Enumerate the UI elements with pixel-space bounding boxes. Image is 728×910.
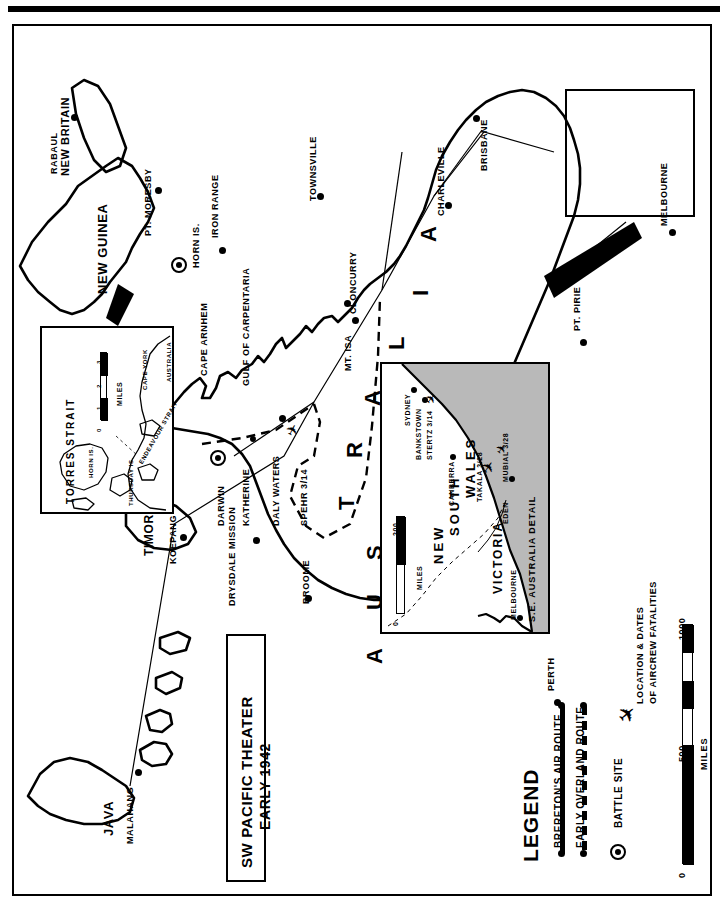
place-label-pt-moresby: PT. MORESBY [144, 168, 153, 236]
legend-label-early-overland-route: EARLY OVERLAND ROUTE [576, 707, 586, 848]
se-scale-unit: MILES [416, 566, 423, 590]
inset-connector-wedges [106, 222, 642, 326]
battle-site-horn-island [171, 257, 187, 273]
se-fatality-label-mubial: MUBIAL 3/28 [502, 433, 509, 482]
region-letter-i: I [410, 289, 432, 296]
legend-label-fatalities-line2: OF AIRCREW FATALITIES [649, 581, 658, 704]
se-place-label-bankstown: BANKSTOWN [415, 408, 422, 460]
place-label-koepang: KOEPANG [169, 515, 178, 564]
torres-label-australia: AUSTRALIA [166, 342, 172, 382]
map-frame: NEW BRITAIN RABAUL NEW GUINEA PT. MORESB… [12, 24, 712, 896]
se-inset-title: S.E. AUSTRALIA DETAIL [528, 496, 537, 622]
region-letter-l: L [386, 336, 408, 350]
place-label-townsville: TOWNSVILLE [309, 136, 318, 201]
region-label-timor: TIMOR [143, 514, 155, 556]
region-letter-t: T [336, 496, 358, 510]
legend-dot-air-route-top [558, 702, 565, 709]
torres-label-thursday-is: THURSDAY IS. [128, 457, 134, 506]
torres-label-horn-is: HORN IS. [88, 447, 94, 478]
place-dot-cloncurry [344, 300, 351, 307]
se-place-dot-sydney [411, 387, 417, 393]
title-line-1: SW PACIFIC THEATER [239, 696, 254, 868]
place-label-brisbane: BRISBANE [480, 119, 489, 171]
legend-label-fatalities-line1: LOCATION & DATES [636, 607, 645, 704]
place-label-katherine: KATHERINE [242, 469, 251, 526]
place-dot-daly-waters [279, 415, 286, 422]
battle-site-darwin [210, 450, 226, 466]
region-label-cape-arnhem: CAPE ARNHEM [200, 303, 209, 376]
legend-title: LEGEND [520, 768, 541, 862]
title-line-2: EARLY 1942 [258, 743, 272, 830]
se-place-dot-eden [509, 476, 515, 482]
fatality-label-spehr: SPEHR 3/14 [300, 469, 309, 526]
place-dot-townsville [317, 193, 324, 200]
region-label-rabaul-area: NEW BRITAIN [60, 97, 71, 176]
region-label-new-guinea: NEW GUINEA [96, 204, 109, 295]
main-scale-tick-0: 0 [678, 872, 687, 878]
torres-inset-title: TORRES STRAIT [66, 398, 76, 504]
region-label-java: JAVA [102, 801, 115, 836]
se-scale-tick-1: 200 [392, 523, 399, 536]
title-box: SW PACIFIC THEATER EARLY 1942 [226, 634, 266, 882]
region-letter-a1: A [364, 648, 386, 665]
place-dot-melbourne [669, 229, 676, 236]
torres-strait-inset: TORRES STRAIT HORN IS. THURSDAY IS. ENDE… [40, 326, 174, 514]
place-dot-charleville [445, 202, 452, 209]
place-label-drysdale-mission: DRYSDALE MISSION [228, 507, 237, 606]
legend-symbol-airplane-icon: ✈ [613, 701, 641, 729]
se-place-label-eden: EDEN [502, 502, 509, 524]
place-label-mt-isa: MT. ISA [344, 335, 353, 371]
place-dot-mt-isa [352, 317, 359, 324]
main-scale-bar [682, 624, 693, 864]
place-dot-broome [305, 595, 312, 602]
se-place-dot-canberra [450, 454, 456, 460]
region-letter-a3: A [418, 226, 440, 243]
place-label-melbourne: MELBOURNE [660, 163, 669, 226]
place-label-malahang: MALAHANG [126, 787, 135, 844]
place-label-pt-pirie: PT. PIRIE [573, 287, 582, 331]
torres-label-cape-york: CAPE YORK [142, 349, 148, 390]
place-label-daly-waters: DALY WATERS [272, 456, 281, 526]
region-label-gulf-of-carpentaria: GULF OF CARPENTARIA [242, 268, 251, 386]
place-dot-katherine [250, 436, 256, 442]
place-label-darwin: DARWIN [217, 486, 226, 526]
se-place-label-sydney: SYDNEY [404, 394, 411, 426]
map-page: NEW BRITAIN RABAUL NEW GUINEA PT. MORESB… [0, 0, 728, 910]
se-fatality-label-stertz: STERTZ 3/14 [426, 411, 433, 460]
legend-dot-air-route-bottom [558, 850, 565, 857]
place-dot-pt-moresby [155, 187, 162, 194]
legend-dot-overland-bottom [580, 850, 587, 857]
se-place-dot-melbourne [517, 615, 523, 621]
torres-scale-unit: MILES [116, 382, 123, 406]
region-letter-r: R [344, 442, 366, 459]
place-dot-rabaul [71, 114, 78, 121]
main-scale-tick-1000: 1000 [678, 618, 687, 640]
main-scale-unit: MILES [700, 737, 709, 770]
place-dot-iron-range [219, 247, 226, 254]
place-dot-malahang [135, 769, 142, 776]
torres-scale-tick-2: 2 [96, 384, 102, 388]
main-scale-tick-500: 500 [678, 745, 687, 762]
se-place-label-canberra: CANBERRA [448, 461, 455, 506]
place-dot-drysdale [253, 537, 260, 544]
torres-scale-tick-3: 3 [96, 360, 102, 364]
torres-scale-tick-1: 1 [96, 406, 102, 410]
top-rule [8, 6, 720, 12]
se-state-label-new: NEW [432, 525, 445, 564]
place-label-horn-is: HORN IS. [192, 223, 201, 268]
torres-scale-tick-0: 0 [96, 428, 102, 432]
legend-label-battle-site: BATTLE SITE [614, 758, 624, 828]
place-dot-pt-pirie [580, 339, 587, 346]
se-australia-detail-inset: S.E. AUSTRALIA DETAIL NEW SOUTH WALES VI… [380, 362, 550, 634]
legend-symbol-battle-site [610, 844, 626, 860]
se-scale-tick-0: 0 [392, 622, 399, 627]
legend-label-brereton-air-route: BRERETON'S AIR ROUTE [554, 714, 564, 848]
place-dot-koepang [180, 534, 187, 541]
se-state-label-victoria: VICTORIA [492, 521, 504, 594]
place-label-rabaul: RABAUL [50, 132, 59, 174]
region-label-iron-range: IRON RANGE [211, 174, 220, 238]
se-place-label-melbourne: MELBOURNE [510, 569, 517, 620]
place-dot-brisbane [473, 115, 480, 122]
